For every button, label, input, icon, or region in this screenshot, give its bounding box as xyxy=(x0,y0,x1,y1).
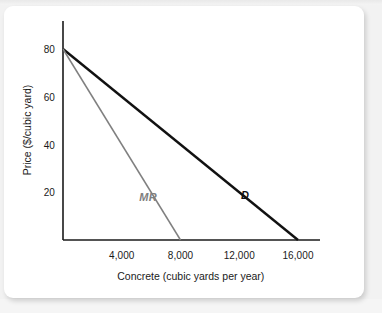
figure-root: 20406080 4,0008,00012,00016,000 DMR Conc… xyxy=(0,0,382,313)
y-axis-title: Price ($/cubic yard) xyxy=(21,85,33,175)
x-tick-label: 8,000 xyxy=(168,250,194,261)
series-line-mr xyxy=(63,49,181,240)
x-axis-title: Concrete (cubic yards per year) xyxy=(117,270,264,282)
chart-canvas xyxy=(0,0,382,313)
y-tick-label: 20 xyxy=(25,187,55,198)
curve-label-d: D xyxy=(241,189,249,201)
curve-label-mr: MR xyxy=(139,191,157,203)
x-tick-label: 12,000 xyxy=(224,250,255,261)
series-line-d xyxy=(63,49,298,240)
x-tick-label: 4,000 xyxy=(109,250,135,261)
series-group xyxy=(63,49,298,240)
axes-group xyxy=(63,21,320,240)
x-tick-label: 16,000 xyxy=(282,250,313,261)
y-tick-label: 80 xyxy=(25,44,55,55)
